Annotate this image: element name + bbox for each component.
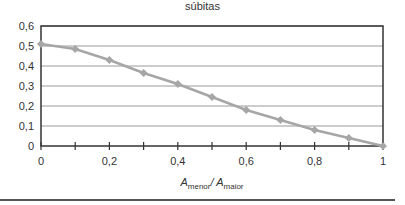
data-point-diamond [140, 69, 148, 77]
x-tick-label: 0,8 [307, 155, 322, 167]
data-point-diamond [174, 80, 182, 88]
y-tick-label: 0,4 [19, 60, 34, 72]
x-label-var2: A [216, 176, 223, 188]
data-point-diamond [379, 142, 387, 150]
x-tick-label: 0 [38, 155, 44, 167]
data-point-diamond [276, 116, 284, 124]
y-tick-label: 0,6 [19, 20, 34, 32]
line-chart: 00,10,20,30,40,50,600,20,40,60,81 [0, 0, 405, 205]
x-label-sub1: menor [188, 182, 211, 191]
data-point-diamond [311, 126, 319, 134]
bottom-rule [0, 199, 395, 201]
y-tick-label: 0,5 [19, 40, 34, 52]
x-tick-label: 0,4 [170, 155, 185, 167]
x-tick-label: 0,6 [239, 155, 254, 167]
x-label-var1: A [180, 176, 187, 188]
data-point-diamond [242, 106, 250, 114]
y-tick-label: 0,1 [19, 120, 34, 132]
x-tick-label: 1 [380, 155, 386, 167]
data-point-diamond [208, 93, 216, 101]
data-point-diamond [37, 40, 45, 48]
data-point-diamond [105, 56, 113, 64]
x-tick-label: 0,2 [102, 155, 117, 167]
y-tick-label: 0,2 [19, 100, 34, 112]
y-tick-label: 0 [28, 140, 34, 152]
y-tick-label: 0,3 [19, 80, 34, 92]
x-label-sub2: maior [224, 182, 244, 191]
x-axis-label: Amenor/ Amaior [0, 176, 405, 191]
data-point-diamond [345, 134, 353, 142]
